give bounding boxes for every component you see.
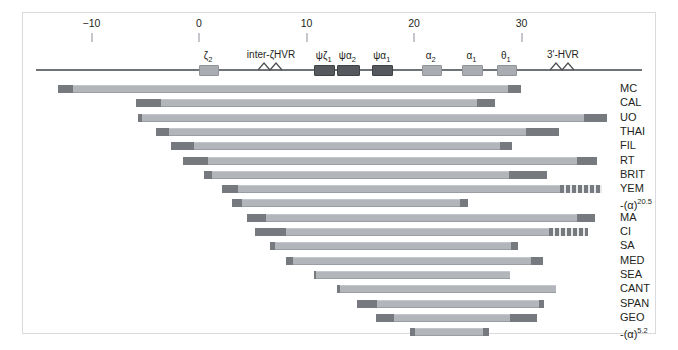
breakpoint-cap-left-CAL	[136, 99, 162, 107]
breakpoint-cap-right-GEO	[510, 314, 537, 322]
deletion-bar-CAL	[136, 99, 495, 107]
breakpoint-cap-right-FIL	[500, 142, 512, 150]
deletion-bar-THAI	[156, 128, 559, 136]
deletion-row: MED	[0, 254, 678, 268]
row-label-BRIT: BRIT	[620, 168, 645, 180]
breakpoint-cap-left-UO	[138, 114, 142, 122]
breakpoint-cap-left-MED	[286, 257, 292, 265]
deletion-bar-CI	[255, 228, 588, 236]
row-label-CI: CI	[620, 225, 631, 237]
breakpoint-cap-left-CI	[255, 228, 286, 236]
row-label-GEO: GEO	[620, 311, 644, 323]
row-label-YEM: YEM	[620, 182, 644, 194]
breakpoint-cap-left-SA	[270, 242, 275, 250]
breakpoint-cap-right-SPAN	[539, 300, 544, 308]
row-label-MED: MED	[620, 254, 644, 266]
row-label--(α)20.5: -(α)20.5	[620, 196, 652, 211]
breakpoint-cap-right-MED	[531, 257, 543, 265]
row-label-MC: MC	[620, 82, 637, 94]
row-label-CAL: CAL	[620, 96, 641, 108]
breakpoint-cap-right-THAI	[526, 128, 559, 136]
deletion-bar-SEA	[314, 271, 510, 279]
row-label-SEA: SEA	[620, 268, 642, 280]
deletion-row: -(α)5.2	[0, 325, 678, 339]
breakpoint-cap-right-CAL	[477, 99, 494, 107]
breakpoint-cap-left-MC	[58, 85, 73, 93]
breakpoint-cap-left-THAI	[156, 128, 169, 136]
alpha-globin-deletion-figure: −100102030 ζ2inter-ζHVRψζ1ψα2ψα1α2α1θ13'…	[0, 0, 678, 350]
row-label-FIL: FIL	[620, 139, 636, 151]
deletion-row: SA	[0, 239, 678, 253]
deletion-bar-FIL	[171, 142, 512, 150]
breakpoint-cap-right-MC	[508, 85, 522, 93]
row-label-SA: SA	[620, 239, 635, 251]
breakpoint-cap-right-BRIT	[509, 171, 548, 179]
breakpoint-cap-right-YEM	[560, 185, 602, 193]
breakpoint-cap-left-FIL	[171, 142, 194, 150]
deletion-bar--(α)20.5	[232, 199, 467, 207]
row-label-SPAN: SPAN	[620, 297, 649, 309]
deletion-row: CAL	[0, 96, 678, 110]
deletion-bar-CANT	[337, 285, 556, 293]
deletion-row: MC	[0, 82, 678, 96]
row-label-RT: RT	[620, 154, 634, 166]
deletion-rows-layer: MCCALUOTHAIFILRTBRITYEM-(α)20.5MACISAMED…	[0, 0, 678, 350]
deletion-bar-YEM	[222, 185, 603, 193]
deletion-row: SEA	[0, 268, 678, 282]
breakpoint-cap-left-BRIT	[204, 171, 212, 179]
deletion-row: BRIT	[0, 168, 678, 182]
breakpoint-cap-right-CI	[549, 228, 588, 236]
deletion-bar-UO	[138, 114, 608, 122]
deletion-bar-BRIT	[204, 171, 547, 179]
row-label--(α)5.2: -(α)5.2	[620, 325, 648, 340]
deletion-row: CI	[0, 225, 678, 239]
breakpoint-cap-right--(α)5.2	[483, 328, 489, 336]
deletion-row: SPAN	[0, 297, 678, 311]
deletion-row: RT	[0, 154, 678, 168]
breakpoint-cap-right-RT	[577, 157, 596, 165]
deletion-bar-RT	[183, 157, 597, 165]
deletion-row: THAI	[0, 125, 678, 139]
breakpoint-cap-right-SA	[511, 242, 519, 250]
breakpoint-cap-right-MA	[577, 214, 594, 222]
deletion-bar--(α)5.2	[410, 328, 490, 336]
deletion-bar-SPAN	[357, 300, 544, 308]
row-label-THAI: THAI	[620, 125, 645, 137]
breakpoint-cap-left-MA	[247, 214, 265, 222]
deletion-row: FIL	[0, 139, 678, 153]
breakpoint-cap-left-GEO	[376, 314, 393, 322]
deletion-bar-MC	[58, 85, 521, 93]
breakpoint-cap-left-YEM	[222, 185, 238, 193]
breakpoint-cap-left-SEA	[314, 271, 316, 279]
deletion-row: MA	[0, 211, 678, 225]
deletion-row: CANT	[0, 282, 678, 296]
deletion-row: -(α)20.5	[0, 196, 678, 210]
breakpoint-cap-right--(α)20.5	[460, 199, 468, 207]
deletion-row: UO	[0, 111, 678, 125]
breakpoint-cap-left-RT	[183, 157, 208, 165]
row-label-MA: MA	[620, 211, 637, 223]
deletion-bar-SA	[270, 242, 518, 250]
row-label-CANT: CANT	[620, 282, 650, 294]
deletion-row: GEO	[0, 311, 678, 325]
deletion-row: YEM	[0, 182, 678, 196]
breakpoint-cap-left-CANT	[337, 285, 340, 293]
deletion-bar-MED	[286, 257, 543, 265]
breakpoint-cap-right-UO	[584, 114, 608, 122]
breakpoint-cap-left-SPAN	[357, 300, 377, 308]
row-label-UO: UO	[620, 111, 637, 123]
deletion-bar-MA	[247, 214, 594, 222]
breakpoint-cap-left--(α)20.5	[232, 199, 242, 207]
breakpoint-cap-left--(α)5.2	[410, 328, 415, 336]
